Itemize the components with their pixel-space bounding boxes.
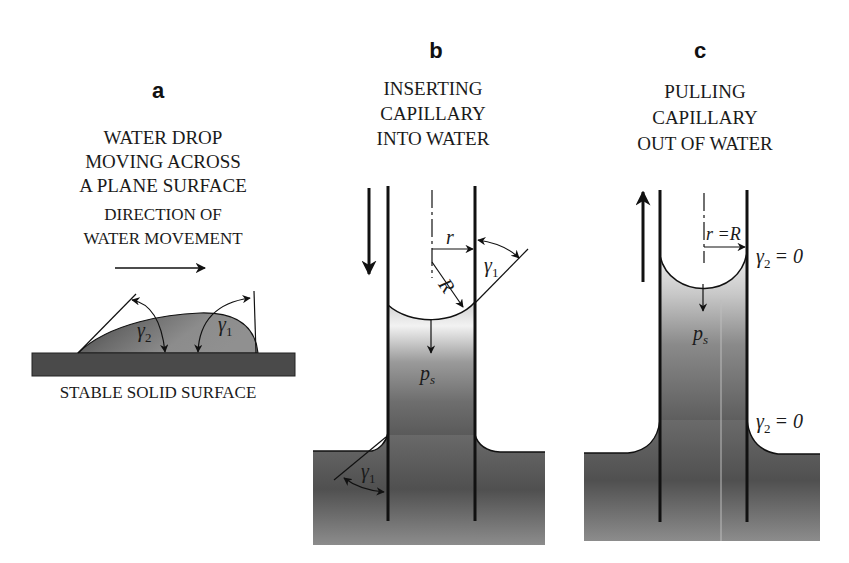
panel-c-title-line-1: PULLING <box>664 81 746 102</box>
R-label: R <box>434 273 460 296</box>
gamma2-top-label: γ2= 0 <box>756 245 803 271</box>
panel-c-label: c <box>694 38 706 63</box>
panel-b-title-line-2: CAPILLARY <box>380 103 486 124</box>
panel-a-direction-line-2: WATER MOVEMENT <box>83 229 243 248</box>
panel-a-title-line-2: MOVING ACROSS <box>85 151 241 172</box>
panel-b-title-line-1: INSERTING <box>383 78 482 99</box>
panel-c-title-line-3: OUT OF WATER <box>637 133 773 154</box>
panel-a-title-line-3: A PLANE SURFACE <box>79 175 247 196</box>
rR-label: r =R <box>706 224 741 244</box>
reservoir-inside <box>388 433 475 545</box>
panel-b: b INSERTING CAPILLARY INTO WATER r R γ1 <box>313 38 545 545</box>
panel-b-label: b <box>429 38 442 63</box>
contact-tangent-b <box>475 249 528 303</box>
surface-label: STABLE SOLID SURFACE <box>60 383 257 402</box>
capillary-diagram: a WATER DROP MOVING ACROSS A PLANE SURFA… <box>0 0 849 563</box>
reservoir-inside-c <box>660 420 747 541</box>
reservoir-left-c <box>584 420 660 541</box>
gamma1-top-label: γ1 <box>484 254 498 280</box>
gamma2-bottom-label: γ2= 0 <box>756 410 803 436</box>
panel-a-direction-line-1: DIRECTION OF <box>104 205 222 224</box>
panel-b-title-line-3: INTO WATER <box>377 128 490 149</box>
panel-c: c PULLING CAPILLARY OUT OF WATER r =R γ2… <box>584 38 820 541</box>
panel-c-title-line-2: CAPILLARY <box>652 107 758 128</box>
panel-a: a WATER DROP MOVING ACROSS A PLANE SURFA… <box>32 78 295 402</box>
solid-surface <box>32 353 295 376</box>
reservoir-right-c <box>747 420 820 541</box>
r-label: r <box>446 226 454 248</box>
panel-a-title-line-1: WATER DROP <box>104 127 223 148</box>
panel-a-label: a <box>152 78 165 103</box>
